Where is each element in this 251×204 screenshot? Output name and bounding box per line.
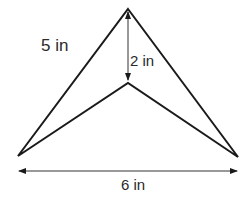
arrowhead-shape (0, 0, 251, 204)
side-length-label: 5 in (41, 36, 68, 56)
diagram-canvas: 5 in 2 in 6 in (0, 0, 251, 204)
base-length-label: 6 in (121, 176, 145, 193)
height-label: 2 in (130, 52, 154, 69)
